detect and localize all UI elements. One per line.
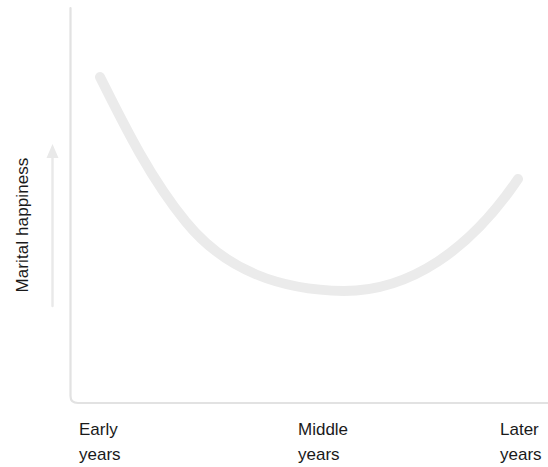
up-arrow-icon [47, 144, 59, 306]
x-tick-middle-line2: years [298, 442, 348, 467]
x-tick-label-middle: Middle years [298, 417, 348, 467]
x-tick-early-line2: years [79, 442, 121, 467]
x-tick-middle-line1: Middle [298, 420, 348, 439]
x-tick-early-line1: Early [79, 420, 118, 439]
x-tick-label-early: Early years [79, 417, 121, 467]
happiness-curve [100, 77, 518, 291]
axis-spine [71, 8, 548, 403]
x-tick-later-line2: years [500, 442, 542, 467]
x-tick-label-later: Later years [500, 417, 542, 467]
x-tick-later-line1: Later [500, 420, 539, 439]
